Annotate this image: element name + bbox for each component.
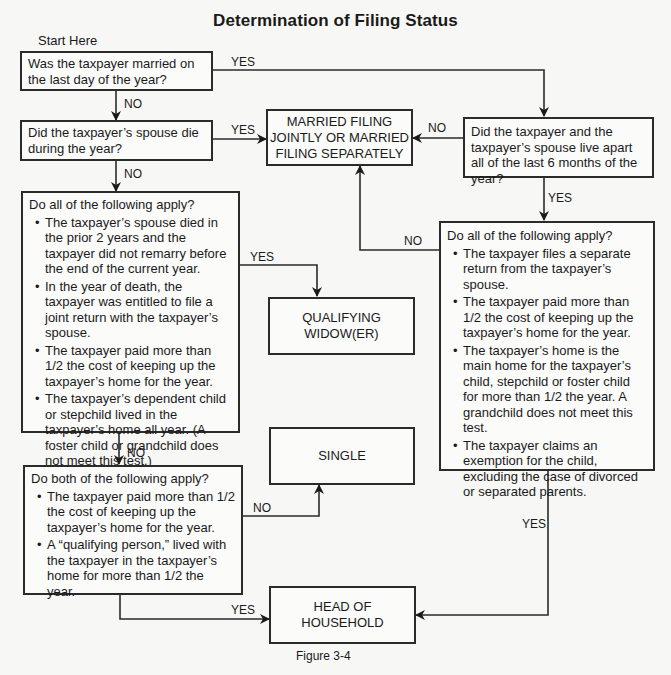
criteria-list: The taxpayer files a separate return fro… (447, 246, 647, 500)
criteria-item: The taxpayer paid more than 1/2 the cost… (29, 343, 232, 390)
edge-label-apart-no: NO (428, 121, 446, 135)
diagram-title: Determination of Filing Status (0, 11, 671, 31)
question-text: Was the taxpayer married on the last day… (28, 56, 194, 87)
edge-label-died-yes: YES (231, 123, 255, 137)
outcome-line: HOUSEHOLD (301, 615, 383, 631)
criteria-list: The taxpayer’s spouse died in the prior … (29, 215, 232, 469)
outcome-line: FILING SEPARATELY (270, 146, 409, 162)
criteria-item: The taxpayer files a separate return fro… (447, 246, 647, 293)
question-spouse-died: Did the taxpayer’s spouse die during the… (20, 120, 213, 161)
question-heading: Do both of the following apply? (31, 471, 235, 487)
question-heading: Do all of the following apply? (447, 228, 647, 244)
question-head-of-household-tests: Do both of the following apply? The taxp… (23, 465, 243, 595)
criteria-list: The taxpayer paid more than 1/2 the cost… (31, 489, 235, 600)
question-heading: Do all of the following apply? (29, 197, 232, 213)
outcome-qualifying-widower: QUALIFYING WIDOW(ER) (268, 297, 415, 355)
edge-label-hoh-yes: YES (231, 603, 255, 617)
criteria-item: The taxpayer’s home is the main home for… (447, 343, 647, 436)
outcome-single: SINGLE (269, 427, 415, 485)
question-qualifying-widow-tests: Do all of the following apply? The taxpa… (21, 191, 240, 433)
criteria-item: The taxpayer claims an exemption for the… (447, 438, 647, 500)
figure-caption: Figure 3-4 (296, 649, 351, 663)
start-label: Start Here (38, 33, 97, 48)
edge-label-abandoned-no: NO (404, 234, 422, 248)
outcome-line: HEAD OF (301, 599, 383, 615)
edge-label-hoh-no: NO (253, 501, 271, 515)
outcome-line: JOINTLY OR MARRIED (270, 130, 409, 146)
outcome-line: SINGLE (318, 448, 366, 464)
outcome-line: QUALIFYING (302, 310, 381, 326)
edge-label-widow-no: NO (127, 446, 145, 460)
edge-label-died-no: NO (124, 167, 142, 181)
criteria-item: The taxpayer paid more than 1/2 the cost… (447, 294, 647, 341)
criteria-item: The taxpayer paid more than 1/2 the cost… (31, 489, 235, 536)
question-married-last-day: Was the taxpayer married on the last day… (20, 51, 213, 91)
criteria-item: The taxpayer’s spouse died in the prior … (29, 215, 232, 277)
outcome-line: MARRIED FILING (270, 114, 409, 130)
outcome-line: WIDOW(ER) (302, 326, 381, 342)
edge-label-married-yes: YES (231, 55, 255, 69)
outcome-married-filing: MARRIED FILING JOINTLY OR MARRIED FILING… (266, 109, 413, 166)
edge-label-widow-yes: YES (250, 250, 274, 264)
edge-label-apart-yes: YES (548, 191, 572, 205)
criteria-item: In the year of death, the taxpayer was e… (29, 279, 232, 341)
outcome-head-of-household: HEAD OF HOUSEHOLD (269, 586, 416, 644)
question-text: Did the taxpayer’s spouse die during the… (28, 125, 199, 156)
question-lived-apart: Did the taxpayer and the taxpayer’s spou… (463, 117, 654, 178)
criteria-item: A “qualifying person,” lived with the ta… (31, 537, 235, 599)
edge-label-abandoned-yes: YES (522, 517, 546, 531)
question-text: Did the taxpayer and the taxpayer’s spou… (471, 124, 637, 186)
edge-label-married-no: NO (124, 97, 142, 111)
question-considered-unmarried-tests: Do all of the following apply? The taxpa… (439, 221, 655, 471)
